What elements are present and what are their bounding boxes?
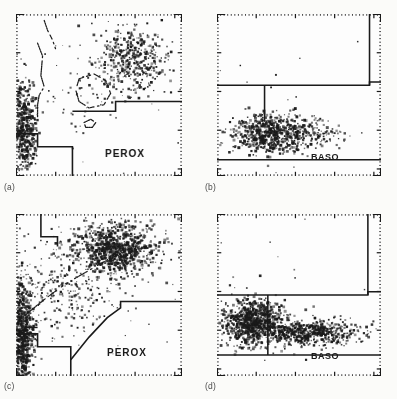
cytogram-plot-d [217,214,381,376]
panel-caption-b: (b) [205,182,216,192]
scatter-canvas-d [217,214,381,376]
channel-label-baso-b: BASO [311,152,339,162]
scatter-canvas-c [16,214,182,376]
panel-a: PEROX (a) [0,0,199,200]
channel-label-baso-d: BASO [311,351,339,361]
channel-label-perox-a: PEROX [105,148,145,159]
data-points [218,218,376,361]
panel-caption-d: (d) [205,381,216,391]
panel-caption-c: (c) [4,381,15,391]
channel-label-perox-c: PEROX [107,347,147,358]
scatter-canvas-a [16,14,182,176]
cytogram-plot-a [16,14,182,176]
scatter-canvas-b [217,14,381,176]
axis-tick-border [217,14,381,176]
panel-c: PEROX (c) [0,200,199,399]
data-points [219,41,362,173]
data-points [16,217,181,376]
axis-tick-border [16,14,182,176]
panel-d: BASO (d) [199,200,397,399]
cytogram-plot-b [217,14,381,176]
panel-b: BASO (b) [199,0,397,200]
cytogram-plot-c [16,214,182,376]
data-points [16,14,181,174]
figure-grid: PEROX (a) BASO (b) PEROX (c) BASO (d) [0,0,397,399]
panel-caption-a: (a) [4,182,15,192]
gate-lines [16,20,182,176]
